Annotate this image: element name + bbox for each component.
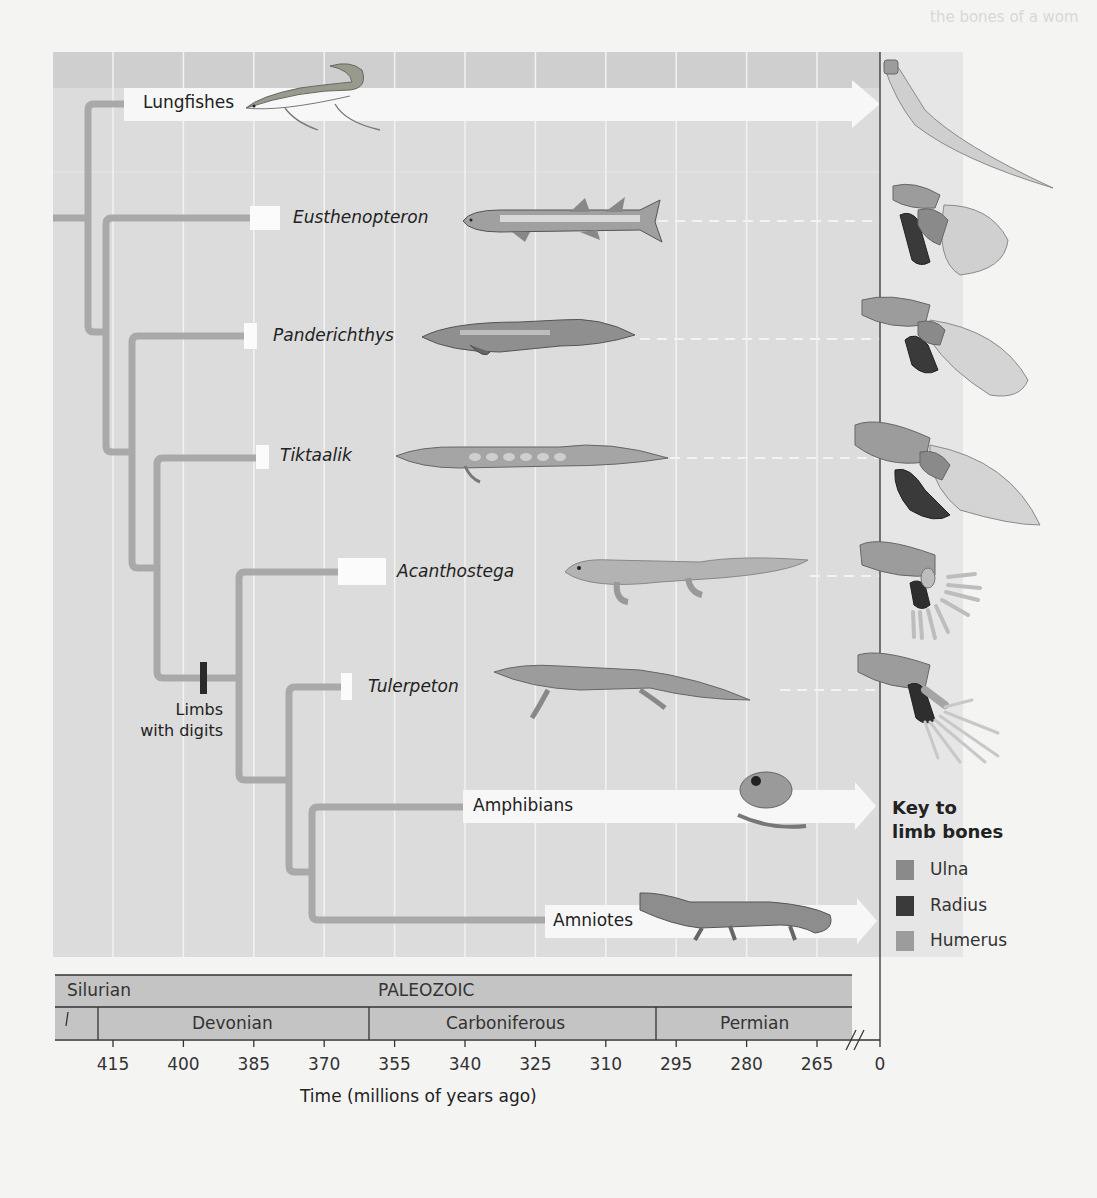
limbs-with-digits-marker [200,662,207,694]
taxon-label-amniotes: Amniotes [553,910,633,930]
key-label-ulna: Ulna [930,859,968,879]
era-label-paleozoic: PALEOZOIC [378,980,474,1000]
taxon-label-tulerpeton: Tulerpeton [368,676,459,696]
period-label-devonian: Devonian [192,1013,273,1033]
tick-label: 385 [238,1054,270,1074]
taxon-label-eusthenopteron: Eusthenopteron [293,207,429,227]
tick-label: 415 [97,1054,129,1074]
taxon-label-tiktaalik: Tiktaalik [280,445,352,465]
synapomorphy-label-line2: with digits [115,721,223,740]
taxon-label-amphibians: Amphibians [473,795,573,815]
tick-label: 295 [660,1054,692,1074]
tick-label: 280 [730,1054,762,1074]
tick-label: 370 [308,1054,340,1074]
cladogram-figure: the bones of a wom [0,0,1097,1198]
x-axis-title: Time (millions of years ago) [300,1086,537,1106]
key-swatch-radius [896,896,914,916]
tick-label: 340 [449,1054,481,1074]
key-label-radius: Radius [930,895,987,915]
key-title-line1: Key to [892,796,1003,820]
key-swatch-humerus [896,931,914,951]
key-swatch-ulna [896,860,914,880]
period-label-permian: Permian [720,1013,789,1033]
top-band [53,52,880,88]
tick-label: 265 [801,1054,833,1074]
period-label-silurian: Silurian [67,980,131,1000]
period-label-carboniferous: Carboniferous [446,1013,565,1033]
tick-label: 310 [590,1054,622,1074]
eusthenopteron-range [250,206,280,230]
tulerpeton-range [341,673,352,700]
tick-label: 355 [378,1054,410,1074]
tiktaalik-range [256,445,269,469]
key-title-line2: limb bones [892,820,1003,844]
taxon-label-acanthostega: Acanthostega [397,561,514,581]
tick-label: 325 [519,1054,551,1074]
panderichthys-range [244,323,257,349]
taxon-label-lungfishes: Lungfishes [143,92,234,112]
synapomorphy-label-line1: Limbs [161,700,223,719]
key-title: Key to limb bones [892,796,1003,844]
tick-label: 0 [875,1054,886,1074]
key-label-humerus: Humerus [930,930,1007,950]
tick-label: 400 [167,1054,199,1074]
acanthostega-range [338,558,386,585]
taxon-label-panderichthys: Panderichthys [273,325,394,345]
